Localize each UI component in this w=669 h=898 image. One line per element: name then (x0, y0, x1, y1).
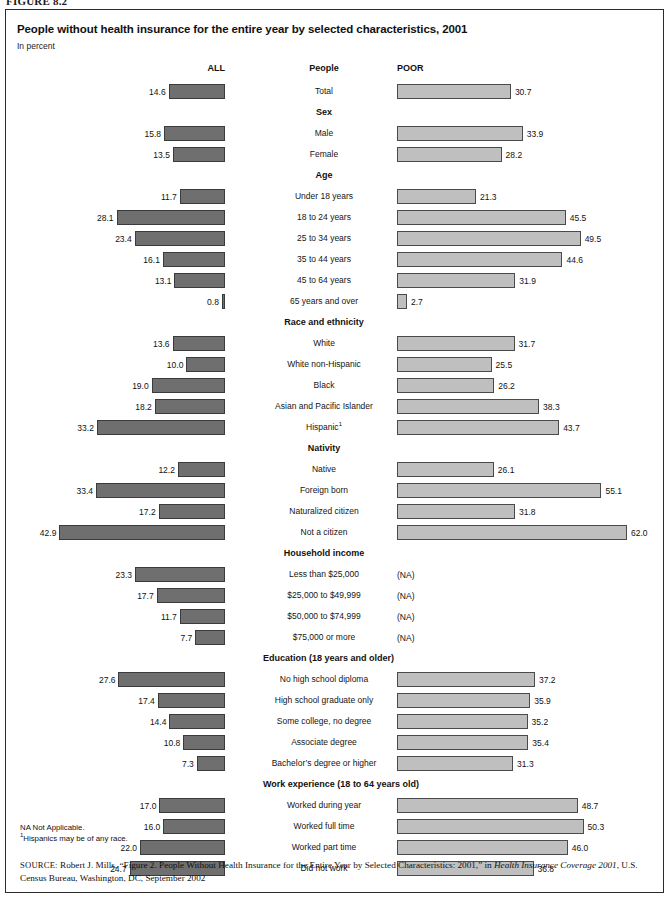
poor-bar (397, 714, 528, 729)
poor-series-cell: 26.1 (397, 459, 514, 480)
section-heading: Education (18 years and older) (15, 648, 654, 669)
all-value-label: 7.3 (182, 759, 194, 769)
all-value-label: 11.7 (161, 612, 177, 622)
poor-series-cell: 46.0 (397, 837, 588, 858)
all-series-cell: 14.6 (15, 81, 225, 102)
poor-series-cell: 28.2 (397, 144, 522, 165)
all-bar (180, 189, 225, 204)
poor-bar (397, 357, 492, 372)
chart-row: 13.145 to 64 years31.9 (15, 270, 654, 291)
all-series-cell: 13.6 (15, 333, 225, 354)
poor-series-cell: (NA) (397, 585, 414, 606)
row-label: 35 to 44 years (263, 249, 385, 270)
all-bar (157, 588, 225, 603)
all-bar (118, 672, 225, 687)
all-value-label: 23.3 (116, 570, 133, 580)
all-series-cell: 17.7 (15, 585, 225, 606)
poor-series-cell: 62.0 (397, 522, 648, 543)
all-series-cell: 17.2 (15, 501, 225, 522)
poor-bar (397, 504, 515, 519)
row-label-footnote-marker: 1 (339, 421, 342, 427)
all-series-cell: 42.9 (15, 522, 225, 543)
poor-series-cell: (NA) (397, 564, 414, 585)
all-bar (135, 231, 225, 246)
all-series-cell: 17.4 (15, 690, 225, 711)
poor-bar (397, 378, 494, 393)
poor-bar (397, 231, 581, 246)
poor-value-label: 31.9 (519, 276, 536, 286)
poor-na-label: (NA) (397, 612, 414, 622)
all-value-label: 10.0 (167, 360, 184, 370)
chart-row: 15.8Male33.9 (15, 123, 654, 144)
all-bar (163, 819, 225, 834)
all-value-label: 17.4 (138, 696, 155, 706)
poor-bar (397, 672, 535, 687)
poor-value-label: 25.5 (496, 360, 513, 370)
poor-value-label: 45.5 (570, 213, 587, 223)
all-value-label: 42.9 (40, 528, 57, 538)
source-italic-title: Health Insurance Coverage 2001 (494, 860, 617, 870)
figure-frame: People without health insurance for the … (5, 9, 664, 893)
poor-value-label: 35.2 (532, 717, 549, 727)
row-label: Under 18 years (263, 186, 385, 207)
chart-row: 14.4Some college, no degree35.2 (15, 711, 654, 732)
chart-row: 7.3Bachelor’s degree or higher31.3 (15, 753, 654, 774)
poor-series-cell: 31.8 (397, 501, 536, 522)
all-value-label: 17.0 (140, 801, 157, 811)
row-label: White non-Hispanic (263, 354, 385, 375)
poor-bar (397, 189, 476, 204)
all-value-label: 12.2 (158, 465, 175, 475)
all-value-label: 10.8 (164, 738, 181, 748)
all-value-label: 19.0 (132, 381, 149, 391)
chart-row: 33.4Foreign born55.1 (15, 480, 654, 501)
all-value-label: 23.4 (115, 234, 132, 244)
poor-series-cell: (NA) (397, 627, 414, 648)
poor-value-label: 26.1 (498, 465, 515, 475)
row-label: Female (263, 144, 385, 165)
chart-row: 23.425 to 34 years49.5 (15, 228, 654, 249)
section-heading-label: Household income (263, 543, 385, 564)
all-value-label: 27.6 (99, 675, 116, 685)
all-value-label: 33.4 (77, 486, 94, 496)
all-bar (183, 735, 225, 750)
all-bar (59, 525, 225, 540)
section-heading: Age (15, 165, 654, 186)
all-bar (169, 714, 225, 729)
poor-bar (397, 294, 407, 309)
poor-na-label: (NA) (397, 570, 414, 580)
poor-na-label: (NA) (397, 633, 414, 643)
all-bar (173, 147, 225, 162)
all-series-cell: 11.7 (15, 186, 225, 207)
all-value-label: 13.6 (153, 339, 170, 349)
poor-bar (397, 840, 568, 855)
row-label: Naturalized citizen (263, 501, 385, 522)
chart-row: 17.2Naturalized citizen31.8 (15, 501, 654, 522)
all-value-label: 11.7 (161, 192, 177, 202)
chart-row: 42.9Not a citizen62.0 (15, 522, 654, 543)
column-header-people: People (263, 63, 385, 73)
poor-series-cell: 31.7 (397, 333, 535, 354)
all-series-cell: 17.0 (15, 795, 225, 816)
poor-series-cell: 35.4 (397, 732, 549, 753)
chart-subtitle: In percent (17, 41, 654, 51)
section-heading: Nativity (15, 438, 654, 459)
poor-bar (397, 399, 539, 414)
poor-value-label: 21.3 (480, 192, 497, 202)
poor-series-cell: 35.2 (397, 711, 548, 732)
source-text-before: Robert J. Mills, “Figure 2. People Witho… (58, 860, 494, 870)
poor-series-cell: 33.9 (397, 123, 543, 144)
all-series-cell: 11.7 (15, 606, 225, 627)
all-value-label: 0.8 (207, 297, 219, 307)
all-bar (152, 378, 225, 393)
all-value-label: 18.2 (135, 402, 152, 412)
poor-bar (397, 84, 511, 99)
poor-series-cell: 48.7 (397, 795, 598, 816)
poor-value-label: 43.7 (563, 423, 580, 433)
poor-bar (397, 483, 601, 498)
chart-row: 10.8Associate degree35.4 (15, 732, 654, 753)
poor-series-cell: 2.7 (397, 291, 423, 312)
section-heading: Race and ethnicity (15, 312, 654, 333)
chart-rows: 14.6Total30.7Sex15.8Male33.913.5Female28… (15, 81, 654, 879)
poor-value-label: 49.5 (585, 234, 602, 244)
all-series-cell: 19.0 (15, 375, 225, 396)
